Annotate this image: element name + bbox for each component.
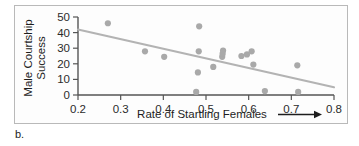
y-axis-title-line-2: Success — [35, 19, 48, 96]
figure-caption: b. — [15, 128, 24, 140]
y-axis-title-line-1: Male Courtship — [22, 19, 35, 96]
plot-frame — [14, 5, 348, 124]
y-axis-title: Male Courtship Success — [17, 12, 53, 104]
figure-panel: Male Courtship Success 01020304050 0.20.… — [0, 0, 359, 146]
